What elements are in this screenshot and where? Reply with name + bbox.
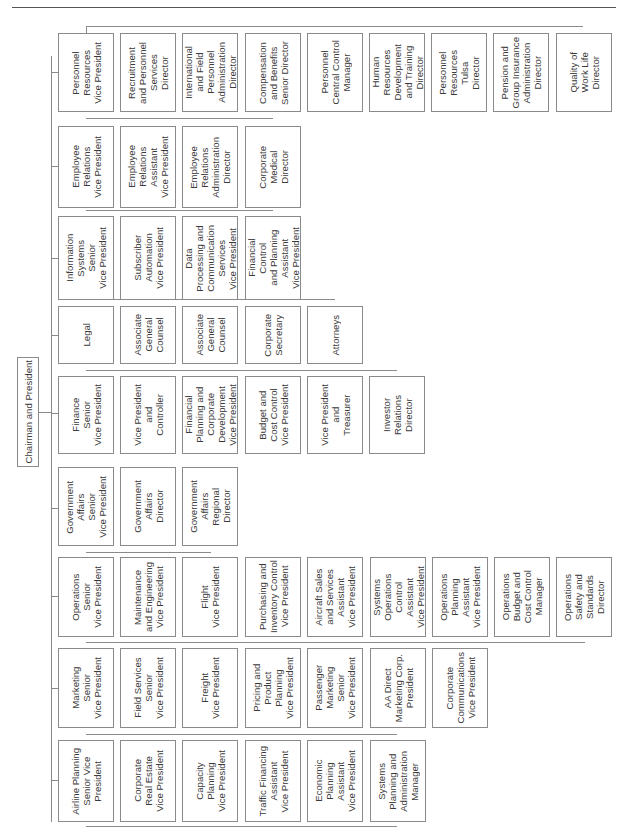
node-report: Data Processing and Communication Servic… (182, 216, 238, 300)
connector (51, 335, 58, 336)
node-report: Recruitment and Personnel Services Direc… (120, 33, 176, 112)
node-report: Systems Planning and Administration Mana… (370, 740, 426, 822)
connector (86, 826, 397, 827)
node-report: Budget and Cost Control Vice President (245, 376, 301, 454)
node-report: Financial Control and Planning Assistant… (245, 216, 301, 300)
node-label: AA Direct Marketing Corp. President (382, 654, 415, 722)
main-trunk (51, 56, 52, 822)
node-label: Attorneys (330, 315, 341, 356)
node-report: Operations Safety and Standards Director (556, 557, 612, 637)
node-label: Data Processing and Communication Servic… (183, 225, 238, 292)
node-label: Corporate Medical Director (257, 146, 290, 189)
connector (86, 734, 397, 735)
node-label: Employee Relations Vice President (70, 136, 103, 198)
connector (86, 370, 397, 371)
node-label: Flight Vice President (199, 566, 221, 628)
connector (51, 780, 58, 781)
node-report: Pension and Group Insurance Administrati… (493, 33, 549, 112)
connector (51, 508, 58, 509)
node-report: Quality of Work Life Director (556, 33, 612, 112)
node-report: Subscriber Automation Vice President (120, 216, 176, 300)
node-report: AA Direct Marketing Corp. President (370, 648, 426, 728)
node-label: Recruitment and Personnel Services Direc… (126, 42, 170, 104)
node-report: Government Affairs Regional Director (182, 467, 238, 546)
node-finance-svp: Finance Senior Vice President (58, 376, 114, 454)
node-label: Traffic Financing Assistant Vice Preside… (257, 746, 290, 816)
node-report: Systems Operations Control Assistant Vic… (370, 557, 426, 637)
node-label: Information Systems Senior Vice Presiden… (64, 227, 108, 289)
node-label: Purchasing and Inventory Control Vice Pr… (257, 560, 290, 633)
node-label: Field Services Senior Vice President (132, 657, 165, 719)
connector (335, 642, 585, 643)
node-report: Operations Budget and Cost Control Manag… (494, 557, 550, 637)
node-label: Chairman and President (23, 360, 34, 463)
node-report: Personnel Central Control Manager (307, 33, 363, 112)
node-label: Government Affairs Director (132, 480, 165, 533)
node-personnel-resources-vp: Personnel Resources Vice President (58, 33, 114, 112)
node-label: Corporate Communications Vice President (444, 652, 477, 723)
node-label: Personnel Resources Tulsa Director (437, 50, 481, 96)
node-label: Financial Planning and Corporate Develop… (183, 384, 238, 446)
connector (51, 688, 58, 689)
node-report: Pricing and Product Planning Vice Presid… (245, 648, 301, 728)
node-report: Operations Planning Assistant Vice Presi… (432, 557, 488, 637)
node-label: Operations Safety and Standards Director (562, 574, 606, 621)
node-label: Human Resources Development and Training… (370, 44, 425, 101)
node-label: Subscriber Automation Vice President (132, 227, 165, 289)
node-label: Legal (81, 323, 92, 346)
page-header-rule (12, 7, 616, 8)
node-label: Government Affairs Senior Vice President (64, 476, 108, 538)
node-label: Associate General Counsel (194, 314, 227, 356)
node-report: Government Affairs Director (120, 467, 176, 546)
node-report: Vice President and Controller (120, 376, 176, 454)
connector (86, 26, 583, 27)
connector (86, 210, 273, 211)
node-employee-relations-vp: Employee Relations Vice President (58, 126, 114, 208)
node-label: Corporate Secretary (262, 314, 284, 357)
connector (86, 552, 211, 553)
node-report: Corporate Real Estate Vice President (120, 740, 176, 822)
connector (86, 642, 335, 643)
node-marketing-svp: Marketing Senior Vice President (58, 648, 114, 728)
node-report: Personnel Resources Tulsa Director (431, 33, 487, 112)
node-label: Pricing and Product Planning Vice Presid… (251, 657, 295, 719)
node-report: Investor Relations Director (369, 376, 425, 454)
connector (86, 26, 87, 33)
node-report: Human Resources Development and Training… (369, 33, 425, 112)
node-label: Systems Operations Control Assistant Vic… (371, 566, 426, 628)
node-label: Marketing Senior Vice President (70, 657, 103, 719)
connector (51, 413, 58, 414)
node-label: Compensation and Benefits Senior Directo… (257, 41, 290, 105)
node-label: Investor Relations Director (381, 395, 414, 435)
connector (86, 299, 335, 300)
node-label: Maintenance and Engineering Vice Preside… (132, 562, 165, 632)
node-label: Financial Control and Planning Assistant… (246, 227, 301, 289)
node-legal: Legal (58, 306, 114, 364)
node-label: International and Field Personnel Admini… (183, 42, 238, 103)
node-report: Economic Planning Assistant Vice Preside… (307, 740, 363, 822)
node-report: Compensation and Benefits Senior Directo… (245, 33, 301, 112)
node-label: Associate General Counsel (132, 314, 165, 356)
node-government-affairs-svp: Government Affairs Senior Vice President (58, 467, 114, 546)
node-report: Financial Planning and Corporate Develop… (182, 376, 238, 454)
node-report: Employee Relations Administration Direct… (182, 126, 238, 208)
node-label: Quality of Work Life Director (568, 52, 601, 93)
node-report: Aircraft Sales and Services Assistant Vi… (307, 557, 363, 637)
node-report: Associate General Counsel (120, 306, 176, 364)
node-report: Flight Vice President (182, 557, 238, 637)
node-label: Corporate Real Estate Vice President (132, 750, 165, 812)
node-report: Passenger Marketing Senior Vice Presiden… (307, 648, 363, 728)
node-label: Personnel Central Control Manager (319, 40, 352, 105)
node-airline-planning-svp: Airline Planning Senior Vice President (58, 740, 114, 822)
node-label: Personnel Resources Vice President (70, 42, 103, 104)
node-label: Economic Planning Assistant Vice Preside… (313, 750, 357, 812)
node-operations-svp: Operations Senior Vice President (58, 557, 114, 637)
node-label: Operations Planning Assistant Vice Presi… (438, 566, 482, 628)
node-report: Purchasing and Inventory Control Vice Pr… (245, 557, 301, 637)
connector (51, 596, 58, 597)
connector (86, 118, 273, 119)
node-report: Capacity Planning Vice President (182, 740, 238, 822)
node-label: Pension and Group Insurance Administrati… (499, 37, 543, 108)
node-label: Operations Senior Vice President (70, 566, 103, 628)
node-label: Operations Budget and Cost Control Manag… (500, 570, 544, 623)
